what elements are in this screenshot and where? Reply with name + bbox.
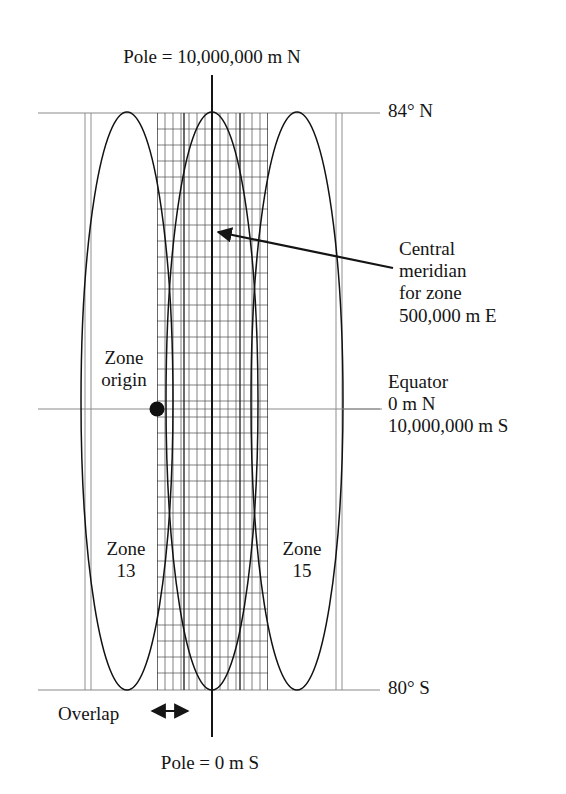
- label-latitude-south: 80° S: [388, 677, 430, 699]
- label-zone-13: Zone 13: [90, 538, 162, 582]
- label-overlap: Overlap: [58, 703, 119, 725]
- label-zone-origin: Zone origin: [88, 347, 160, 391]
- label-equator: Equator 0 m N 10,000,000 m S: [388, 371, 508, 438]
- label-pole-south: Pole = 0 m S: [60, 752, 360, 774]
- label-zone-15: Zone 15: [266, 538, 338, 582]
- zone-origin-point: [150, 402, 165, 417]
- label-pole-north: Pole = 10,000,000 m N: [0, 46, 424, 68]
- label-central-meridian: Central meridian for zone 500,000 m E: [399, 238, 497, 327]
- label-latitude-north: 84° N: [388, 100, 433, 122]
